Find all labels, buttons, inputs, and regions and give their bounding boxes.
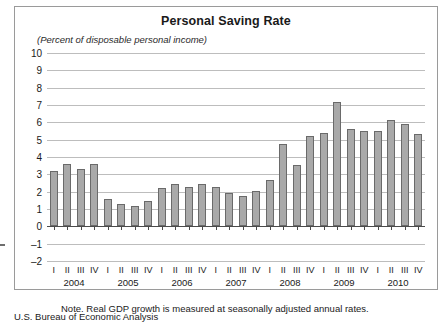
bar — [374, 131, 382, 226]
x-tick — [121, 226, 122, 230]
x-tick — [189, 226, 190, 230]
quarter-label: III — [401, 265, 409, 275]
bar — [225, 193, 233, 227]
quarter-label: I — [106, 265, 109, 275]
bar — [293, 165, 301, 227]
x-tick — [216, 226, 217, 230]
y-tick-label: 0 — [36, 221, 42, 232]
quarter-label: III — [239, 265, 247, 275]
y-tick-label: 5 — [36, 134, 42, 145]
quarter-label: IV — [414, 265, 423, 275]
year-label: 2004 — [63, 277, 84, 288]
x-tick — [135, 226, 136, 230]
x-tick — [202, 226, 203, 230]
x-tick — [324, 226, 325, 230]
year-label: 2009 — [333, 277, 354, 288]
quarter-label: IV — [198, 265, 207, 275]
year-label: 2006 — [171, 277, 192, 288]
x-tick — [229, 226, 230, 230]
bar — [347, 129, 355, 226]
quarter-label: II — [119, 265, 124, 275]
year-label: 2005 — [117, 277, 138, 288]
x-tick — [283, 226, 284, 230]
bar — [104, 199, 112, 226]
x-tick — [297, 226, 298, 230]
bar — [185, 187, 193, 226]
quarter-label: I — [268, 265, 271, 275]
quarter-label: III — [131, 265, 139, 275]
y-tick-label: 10 — [31, 48, 42, 59]
bar — [320, 133, 328, 227]
y-tick-label: 6 — [36, 117, 42, 128]
quarter-axis-labels: IIIIIIIVIIIIIIIVIIIIIIIVIIIIIIIVIIIIIIIV… — [47, 265, 425, 277]
bar — [158, 188, 166, 226]
bar — [144, 201, 152, 226]
y-tick-label: –1 — [31, 238, 42, 249]
x-tick — [162, 226, 163, 230]
bar — [77, 169, 85, 226]
bar — [198, 184, 206, 226]
quarter-label: I — [160, 265, 163, 275]
quarter-label: IV — [252, 265, 261, 275]
quarter-label: II — [65, 265, 70, 275]
x-tick — [256, 226, 257, 230]
quarter-label: III — [185, 265, 193, 275]
bar — [131, 206, 139, 226]
year-axis-labels: 2004200520062007200820092010 — [47, 277, 425, 290]
y-tick-label: 8 — [36, 82, 42, 93]
x-tick — [175, 226, 176, 230]
bar — [117, 204, 125, 227]
x-tick — [94, 226, 95, 230]
quarter-label: III — [347, 265, 355, 275]
y-tick-label: 7 — [36, 100, 42, 111]
x-tick — [391, 226, 392, 230]
bar — [360, 131, 368, 226]
x-tick — [405, 226, 406, 230]
x-tick — [148, 226, 149, 230]
x-tick — [67, 226, 68, 230]
quarter-label: IV — [306, 265, 315, 275]
x-tick — [337, 226, 338, 230]
x-tick — [310, 226, 311, 230]
year-label: 2008 — [279, 277, 300, 288]
bar — [252, 191, 260, 227]
quarter-label: IV — [144, 265, 153, 275]
gridline--2: –2 — [47, 261, 425, 262]
y-tick-label: 9 — [36, 65, 42, 76]
y-tick-label: 2 — [36, 186, 42, 197]
x-tick — [81, 226, 82, 230]
year-label: 2007 — [225, 277, 246, 288]
quarter-label: I — [322, 265, 325, 275]
bar — [212, 187, 220, 226]
x-tick — [418, 226, 419, 230]
y-tick-label: 1 — [36, 204, 42, 215]
chart-subtitle: (Percent of disposable personal income) — [37, 34, 207, 45]
bar — [387, 120, 395, 227]
x-tick — [108, 226, 109, 230]
quarter-label: IV — [360, 265, 369, 275]
x-tick — [270, 226, 271, 230]
quarter-label: II — [389, 265, 394, 275]
bar — [50, 171, 58, 226]
bar — [279, 144, 287, 226]
quarter-label: II — [335, 265, 340, 275]
quarter-label: II — [281, 265, 286, 275]
x-tick — [243, 226, 244, 230]
chart-figure: Personal Saving Rate (Percent of disposa… — [14, 6, 438, 290]
bar-series — [47, 53, 425, 261]
quarter-label: I — [214, 265, 217, 275]
chart-source: U.S. Bureau of Economic Analysis — [14, 311, 158, 322]
y-tick-label: 4 — [36, 152, 42, 163]
bar — [239, 196, 247, 226]
quarter-label: II — [173, 265, 178, 275]
bar — [414, 134, 422, 227]
bar — [306, 136, 314, 226]
quarter-label: I — [52, 265, 55, 275]
quarter-label: II — [227, 265, 232, 275]
plot-area: 109876543210–1–2 — [47, 53, 425, 261]
x-tick — [364, 226, 365, 230]
quarter-label: I — [376, 265, 379, 275]
quarter-label: III — [77, 265, 85, 275]
quarter-label: IV — [90, 265, 99, 275]
quarter-label: III — [293, 265, 301, 275]
